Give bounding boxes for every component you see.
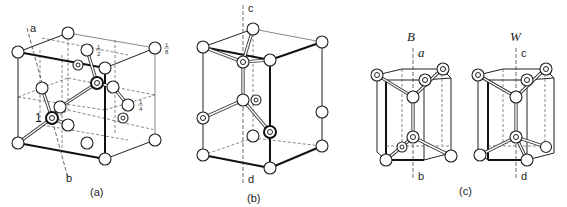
panel-a: a b 1 1 2 1 8 1 4 (a): [12, 22, 169, 198]
title-B: B: [407, 29, 415, 44]
site-label: 1: [35, 111, 42, 125]
axis-label-B-bottom: b: [418, 170, 424, 182]
fraction-half-num: 1: [97, 44, 101, 50]
axis-label-B-top: a: [418, 45, 425, 60]
caption-b: (b): [247, 192, 260, 204]
fraction-quarter-num: 1: [139, 99, 143, 105]
axis-label-a-top: a: [30, 22, 37, 34]
fraction-quarter-den: 4: [139, 106, 143, 112]
fraction-half-den: 2: [97, 51, 101, 57]
axis-label-b-bottom: d: [248, 173, 254, 185]
panel-b: c d (b): [197, 2, 328, 204]
axis-label-b-top: c: [248, 2, 254, 14]
panel-c-W: W c d: [472, 29, 554, 182]
title-W: W: [510, 29, 522, 44]
crystal-structure-figure: a b 1 1 2 1 8 1 4 (a): [0, 0, 567, 207]
axis-label-a-bottom: b: [66, 172, 72, 184]
caption-a: (a): [90, 186, 103, 198]
panel-c-B: B a b: [371, 29, 457, 182]
axis-label-W-top: c: [521, 47, 527, 59]
caption-c: (c): [459, 185, 472, 197]
fraction-eighth-den: 8: [165, 49, 169, 55]
fraction-eighth-num: 1: [165, 42, 169, 48]
axis-label-W-bottom: d: [521, 170, 527, 182]
